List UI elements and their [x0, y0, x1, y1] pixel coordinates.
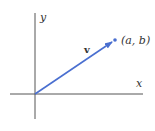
x-axis-label: x [136, 77, 143, 90]
y-axis-label: y [39, 11, 47, 24]
vector-diagram: y x v (a, b) [0, 0, 155, 131]
vector-v [35, 42, 112, 94]
point-label: (a, b) [121, 34, 150, 47]
vector-label: v [83, 44, 91, 55]
vector-head-point [113, 38, 117, 42]
